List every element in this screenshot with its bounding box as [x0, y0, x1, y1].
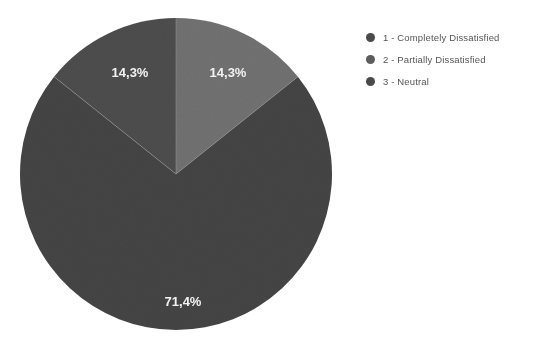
pie-slice-label: 14,3% — [112, 65, 149, 80]
legend-item-label: 2 - Partially Dissatisfied — [383, 54, 486, 65]
pie-chart-figure: 14,3%14,3%71,4% 1 - Completely Dissatisf… — [0, 0, 536, 346]
legend-item-3[interactable]: 3 - Neutral — [366, 70, 536, 92]
legend-item-2[interactable]: 2 - Partially Dissatisfied — [366, 48, 536, 70]
legend-dot-icon — [366, 77, 375, 86]
chart-legend: 1 - Completely Dissatisfied 2 - Partiall… — [366, 26, 536, 92]
pie-slice-label: 71,4% — [165, 294, 202, 309]
legend-item-label: 1 - Completely Dissatisfied — [383, 32, 500, 43]
legend-dot-icon — [366, 55, 375, 64]
legend-item-label: 3 - Neutral — [383, 76, 429, 87]
pie-plot-area: 14,3%14,3%71,4% — [0, 0, 360, 346]
legend-item-1[interactable]: 1 - Completely Dissatisfied — [366, 26, 536, 48]
legend-dot-icon — [366, 33, 375, 42]
pie-svg: 14,3%14,3%71,4% — [0, 0, 360, 346]
pie-slice-label: 14,3% — [210, 65, 247, 80]
